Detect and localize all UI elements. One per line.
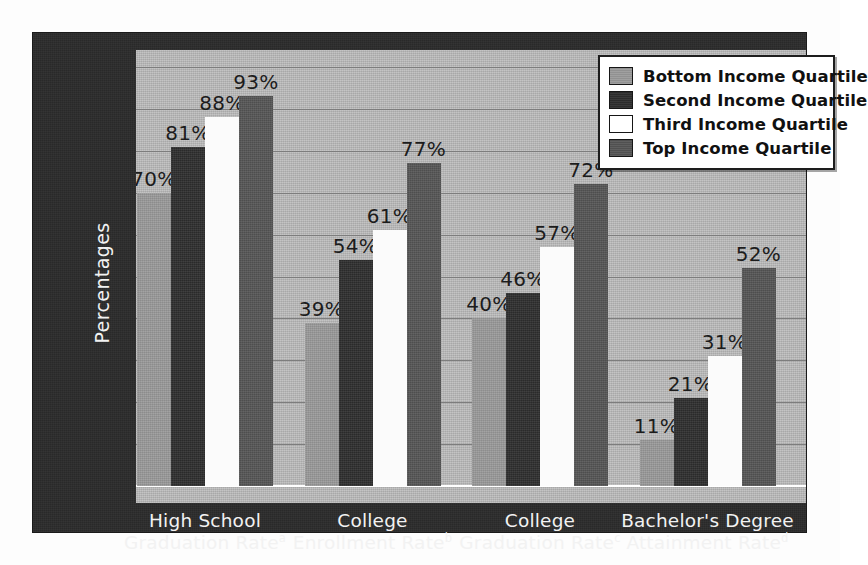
- legend-item: Third Income Quartile: [609, 112, 824, 136]
- legend-label: Second Income Quartile: [643, 91, 867, 110]
- legend-swatch: [609, 115, 633, 133]
- legend-label: Top Income Quartile: [643, 139, 831, 158]
- x-axis-category-line1: College: [450, 510, 630, 532]
- legend-item: Top Income Quartile: [609, 136, 824, 160]
- bar: [373, 230, 407, 486]
- legend-swatch: [609, 91, 633, 109]
- x-axis-category-line2: Enrollment Rateb: [283, 532, 463, 554]
- bar-value-label: 52%: [733, 244, 785, 264]
- x-axis-category-label: Bachelor's DegreeAttainment Rated: [618, 510, 798, 554]
- bar: [407, 163, 441, 486]
- bar: [674, 398, 708, 486]
- x-axis-category-footnote-marker: d: [781, 531, 789, 545]
- bar: [137, 193, 171, 486]
- x-axis-category-line2: Graduation Ratec: [450, 532, 630, 554]
- legend-label: Third Income Quartile: [643, 115, 848, 134]
- x-axis-category-line1: Bachelor's Degree: [618, 510, 798, 532]
- bar: [540, 247, 574, 486]
- legend: Bottom Income QuartileSecond Income Quar…: [598, 55, 835, 170]
- bar: [205, 117, 239, 486]
- x-axis-category-line2: Attainment Rated: [618, 532, 798, 554]
- bar: [708, 356, 742, 486]
- bar-value-label: 93%: [230, 72, 282, 92]
- chart-panel: Percentages 1009080706050403020100 70%81…: [33, 33, 806, 532]
- legend-label: Bottom Income Quartile: [643, 67, 868, 86]
- bar: [305, 323, 339, 486]
- bar: [640, 440, 674, 486]
- bar-value-label: 77%: [398, 139, 450, 159]
- legend-swatch: [609, 139, 633, 157]
- bar: [574, 184, 608, 486]
- legend-swatch: [609, 67, 633, 85]
- x-axis-category-label: High SchoolGraduation Ratea: [115, 510, 295, 554]
- legend-item: Bottom Income Quartile: [609, 64, 824, 88]
- bar: [339, 260, 373, 486]
- bar: [742, 268, 776, 486]
- legend-item: Second Income Quartile: [609, 88, 824, 112]
- bar: [472, 318, 506, 486]
- x-axis-category-line1: College: [283, 510, 463, 532]
- x-axis-category-label: CollegeGraduation Ratec: [450, 510, 630, 554]
- x-axis-category-line2: Graduation Ratea: [115, 532, 295, 554]
- y-axis-title: Percentages: [91, 222, 113, 343]
- bar: [239, 96, 273, 486]
- bar: [506, 293, 540, 486]
- x-axis-category-label: CollegeEnrollment Rateb: [283, 510, 463, 554]
- x-axis-category-line1: High School: [115, 510, 295, 532]
- bar: [171, 147, 205, 486]
